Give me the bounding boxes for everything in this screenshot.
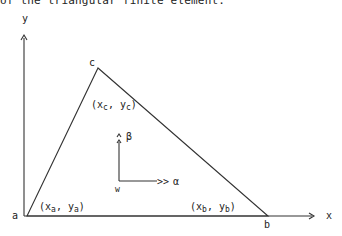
- alpha-label: α: [173, 176, 179, 187]
- vertex-a-label: a: [12, 210, 18, 221]
- vertex-a-coords: (xa, ya): [39, 201, 85, 214]
- vertex-b-label: b: [264, 219, 270, 230]
- vertex-c-coords: (xc, yc): [91, 99, 137, 112]
- triangle-element: [27, 68, 268, 216]
- y-axis-label: y: [22, 13, 28, 24]
- vertex-c-label: c: [89, 57, 95, 68]
- local-axes: β >> α w: [115, 131, 179, 194]
- x-axis-label: x: [326, 210, 332, 221]
- beta-arrow-head-icon: [117, 134, 121, 137]
- origin-w-label: w: [115, 185, 120, 194]
- beta-label: β: [126, 131, 132, 142]
- alpha-arrow-icon: >>: [157, 176, 169, 187]
- vertex-b-coords: (xb, yb): [190, 201, 236, 214]
- global-axes: y x: [21, 13, 332, 221]
- triangular-element-diagram: y x a b c (xa, ya) (xb, yb) (xc, yc) β >…: [0, 0, 342, 236]
